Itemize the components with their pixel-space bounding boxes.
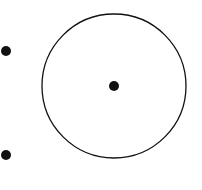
outside-point-bottom [1, 150, 11, 160]
background [0, 0, 202, 190]
outside-point-top [1, 46, 11, 56]
diagram-canvas [0, 0, 202, 190]
center-point [109, 81, 119, 91]
